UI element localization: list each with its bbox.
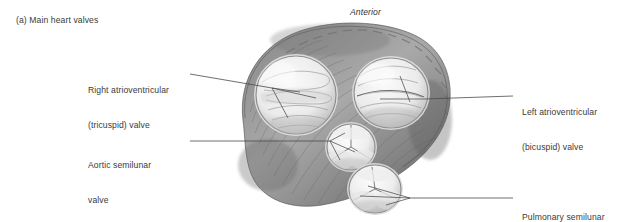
label-left-av-line1: Left atrioventricular [522,107,597,119]
figure-caption: (a) Main heart valves [16,15,98,27]
left-atrioventricular-valve [352,56,430,130]
label-left-av-line2: (bicuspid) valve [522,142,597,154]
figure-container: (a) Main heart valves Anterior Right atr… [0,0,643,222]
label-pulmonary-line1: Pulmonary semilunar [522,212,605,222]
label-right-av-line2: (tricuspid) valve [88,120,169,132]
label-aortic-line1: Aortic semilunar [88,160,151,172]
label-aortic-semilunar-valve: Aortic semilunar valve [88,137,151,222]
orientation-label-anterior: Anterior [350,7,381,19]
label-pulmonary-semilunar-valve: Pulmonary semilunar valve [522,189,605,222]
label-left-atrioventricular-valve: Left atrioventricular (bicuspid) valve [522,84,597,176]
label-right-av-line1: Right atrioventricular [88,85,169,97]
label-aortic-line2: valve [88,195,151,207]
